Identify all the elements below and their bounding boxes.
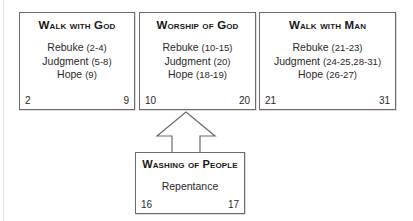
range-start: 2 xyxy=(25,95,31,106)
range-end: 17 xyxy=(228,199,239,210)
line-label: Rebuke xyxy=(162,41,198,53)
line-ref: (20) xyxy=(213,56,230,67)
box-body: Rebuke (2-4) Judgment (5-8) Hope (9) xyxy=(20,41,134,82)
line-label: Rebuke xyxy=(292,41,328,53)
line-label: Hope xyxy=(57,68,82,80)
box-line: Hope (9) xyxy=(20,68,134,82)
box-title: Worship of God xyxy=(140,19,255,31)
diagram-canvas: Walk with God Rebuke (2-4) Judgment (5-8… xyxy=(0,0,413,221)
box-line: Repentance xyxy=(136,180,244,193)
line-label: Repentance xyxy=(162,180,219,192)
box-line: Hope (18-19) xyxy=(140,68,255,82)
line-ref: (9) xyxy=(85,69,97,80)
line-ref: (24-25,28-31) xyxy=(323,56,381,67)
line-label: Judgment xyxy=(42,55,88,67)
box-walk-with-man[interactable]: Walk with Man Rebuke (21-23) Judgment (2… xyxy=(259,12,396,110)
box-line: Rebuke (21-23) xyxy=(260,41,395,55)
line-ref: (18-19) xyxy=(196,69,227,80)
line-ref: (10-15) xyxy=(202,42,233,53)
range-start: 10 xyxy=(145,95,156,106)
box-body: Rebuke (21-23) Judgment (24-25,28-31) Ho… xyxy=(260,41,395,82)
line-label: Judgment xyxy=(164,55,210,67)
line-label: Hope xyxy=(168,68,193,80)
line-label: Hope xyxy=(298,68,323,80)
line-label: Judgment xyxy=(274,55,320,67)
box-title: Walk with Man xyxy=(260,19,395,31)
range-start: 16 xyxy=(141,199,152,210)
box-body: Repentance xyxy=(136,180,244,193)
box-line: Rebuke (10-15) xyxy=(140,41,255,55)
up-arrow-icon xyxy=(155,110,217,154)
range-start: 21 xyxy=(265,95,276,106)
line-ref: (5-8) xyxy=(91,56,111,67)
range-end: 31 xyxy=(379,95,390,106)
range-end: 20 xyxy=(239,95,250,106)
box-line: Hope (26-27) xyxy=(260,68,395,82)
box-line: Judgment (20) xyxy=(140,55,255,69)
box-title: Walk with God xyxy=(20,19,134,31)
box-line: Judgment (24-25,28-31) xyxy=(260,55,395,69)
line-ref: (26-27) xyxy=(326,69,357,80)
page-edge-line xyxy=(3,0,4,221)
box-line: Judgment (5-8) xyxy=(20,55,134,69)
box-walk-with-god[interactable]: Walk with God Rebuke (2-4) Judgment (5-8… xyxy=(19,12,135,110)
box-worship-of-god[interactable]: Worship of God Rebuke (10-15) Judgment (… xyxy=(139,12,256,110)
range-end: 9 xyxy=(123,95,129,106)
box-title: Washing of People xyxy=(136,158,244,170)
line-ref: (21-23) xyxy=(332,42,363,53)
box-body: Rebuke (10-15) Judgment (20) Hope (18-19… xyxy=(140,41,255,82)
line-label: Rebuke xyxy=(47,41,83,53)
box-washing-of-people[interactable]: Washing of People Repentance 16 17 xyxy=(135,152,245,214)
line-ref: (2-4) xyxy=(86,42,106,53)
box-line: Rebuke (2-4) xyxy=(20,41,134,55)
